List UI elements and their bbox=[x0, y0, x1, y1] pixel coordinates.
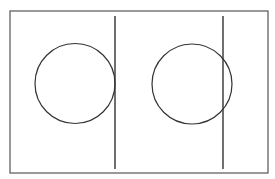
panel-right-secant bbox=[152, 16, 232, 169]
left-circle bbox=[35, 44, 115, 124]
right-circle bbox=[152, 44, 232, 124]
panel-left-tangent bbox=[35, 16, 115, 169]
diagram-canvas bbox=[0, 0, 275, 179]
outer-frame bbox=[10, 11, 268, 173]
